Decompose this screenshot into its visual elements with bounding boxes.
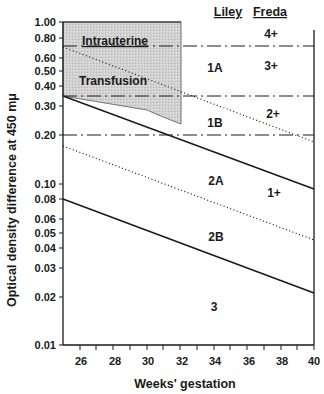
svg-text:0.80: 0.80 — [35, 32, 56, 44]
svg-text:0.02: 0.02 — [35, 291, 56, 303]
svg-text:36: 36 — [243, 355, 255, 367]
svg-text:0.05: 0.05 — [35, 227, 56, 239]
x-axis-title: Weeks' gestation — [134, 377, 235, 391]
liley-zone-2a: 2A — [208, 174, 224, 188]
liley-solid-lower — [63, 199, 314, 293]
freda-zone-3plus: 3+ — [264, 59, 278, 73]
liley-zone-1a: 1A — [207, 61, 223, 75]
y-tick-labels: 1.00 0.80 0.60 0.50 0.40 0.30 0.20 0.10 … — [35, 16, 57, 351]
liley-zone-2b: 2B — [208, 230, 224, 244]
y-axis-title: Optical density difference at 450 mμ — [5, 93, 19, 307]
svg-text:30: 30 — [142, 355, 154, 367]
svg-text:0.30: 0.30 — [35, 100, 56, 112]
svg-text:0.04: 0.04 — [35, 242, 57, 254]
svg-text:34: 34 — [209, 355, 222, 367]
svg-text:28: 28 — [109, 355, 121, 367]
transfusion-label: Transfusion — [79, 74, 147, 88]
freda-zone-2plus: 2+ — [266, 107, 280, 121]
svg-text:0.60: 0.60 — [35, 52, 56, 64]
freda-header: Freda — [253, 5, 288, 19]
x-ticks — [80, 345, 314, 350]
svg-text:0.01: 0.01 — [35, 339, 56, 351]
liley-header: Liley — [214, 5, 243, 19]
liley-zone-3: 3 — [211, 300, 218, 314]
svg-text:40: 40 — [308, 355, 320, 367]
chart-canvas: 1.00 0.80 0.60 0.50 0.40 0.30 0.20 0.10 … — [0, 0, 324, 394]
liley-zone-1b: 1B — [207, 116, 223, 130]
svg-text:26: 26 — [75, 355, 87, 367]
svg-text:0.06: 0.06 — [35, 213, 56, 225]
x-tick-labels: 26 28 30 32 34 36 38 40 — [75, 355, 320, 367]
svg-text:0.08: 0.08 — [35, 193, 56, 205]
svg-text:0.03: 0.03 — [35, 262, 56, 274]
svg-text:32: 32 — [176, 355, 188, 367]
intrauterine-label: Intrauterine — [82, 34, 148, 48]
svg-text:38: 38 — [276, 355, 288, 367]
svg-text:1.00: 1.00 — [35, 16, 56, 28]
freda-zone-1plus: 1+ — [267, 186, 281, 200]
svg-text:0.40: 0.40 — [35, 80, 56, 92]
svg-text:0.10: 0.10 — [35, 178, 56, 190]
svg-text:0.50: 0.50 — [35, 65, 56, 77]
svg-text:0.20: 0.20 — [35, 129, 56, 141]
freda-zone-4plus: 4+ — [264, 27, 278, 41]
